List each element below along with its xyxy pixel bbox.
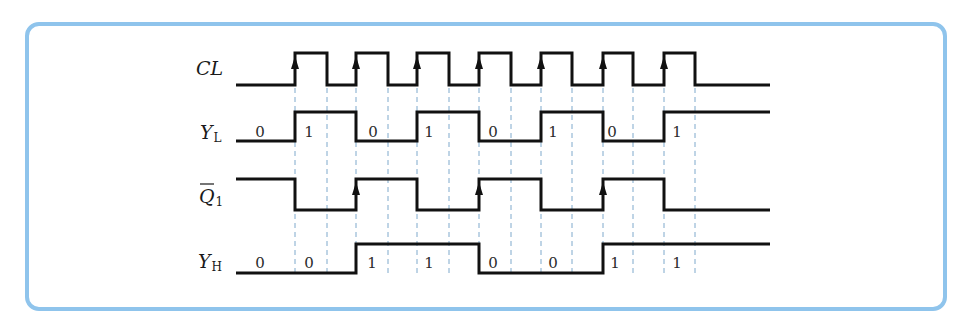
signal-yl: YL 0 1 0 1 0 1 0 1 [200, 112, 770, 145]
svg-text:0: 0 [488, 123, 498, 141]
svg-text:1: 1 [304, 123, 314, 141]
svg-text:0: 0 [368, 123, 378, 141]
svg-text:0: 0 [488, 254, 498, 272]
waveform-cl [236, 53, 770, 85]
svg-text:1: 1 [672, 123, 682, 141]
waveform-yh [236, 244, 770, 273]
svg-text:1: 1 [424, 254, 434, 272]
signal-q1-bar: Q1 [199, 179, 770, 210]
svg-text:0: 0 [255, 254, 265, 272]
label-q1-bar: Q1 [199, 185, 223, 209]
label-yh: YH [198, 250, 222, 274]
q1-rising-edge-arrows [352, 182, 607, 195]
svg-text:0: 0 [607, 123, 617, 141]
label-cl: CL [196, 57, 223, 79]
svg-text:0: 0 [304, 254, 314, 272]
svg-text:0: 0 [548, 254, 558, 272]
label-yl: YL [200, 121, 222, 145]
yh-bit-values: 0 0 1 1 0 0 1 1 [255, 254, 682, 272]
waveform-q1-bar [236, 179, 770, 210]
waveform-yl [236, 112, 770, 141]
svg-text:1: 1 [424, 123, 434, 141]
svg-text:1: 1 [548, 123, 558, 141]
svg-text:1: 1 [610, 254, 620, 272]
signal-cl: CL [196, 53, 770, 85]
svg-text:1: 1 [367, 254, 377, 272]
signal-yh: YH 0 0 1 1 0 0 1 1 [198, 244, 770, 274]
rising-edge-arrows [291, 56, 668, 69]
yl-bit-values: 0 1 0 1 0 1 0 1 [255, 123, 682, 141]
svg-text:0: 0 [255, 123, 265, 141]
timing-diagram: CL YL 0 1 0 1 0 1 0 1 Q1 [0, 0, 972, 329]
svg-text:1: 1 [672, 254, 682, 272]
